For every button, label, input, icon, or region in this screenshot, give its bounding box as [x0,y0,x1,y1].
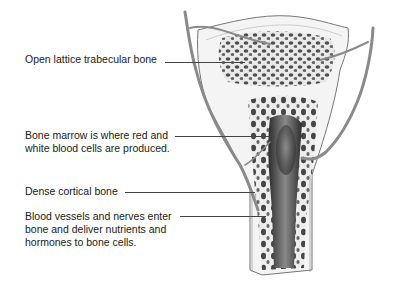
label-vessels-line3: hormones to bone cells. [25,236,172,249]
label-blood-vessels: Blood vessels and nerves enter bone and … [25,210,172,249]
label-marrow-line2: white blood cells are produced. [25,142,170,155]
label-vessels-line2: bone and deliver nutrients and [25,223,172,236]
label-marrow-line1: Bone marrow is where red and [25,129,170,142]
leader-line-marrow [175,136,275,137]
leader-line-cortical [125,192,255,193]
label-trabecular-text: Open lattice trabecular bone [25,53,157,65]
leader-line-vessels [180,216,266,217]
label-cortical-text: Dense cortical bone [25,185,118,197]
leader-line-trabecular [165,62,245,63]
label-vessels-line1: Blood vessels and nerves enter [25,210,172,223]
trabecular-region [219,31,335,86]
label-trabecular-bone: Open lattice trabecular bone [25,53,157,66]
label-bone-marrow: Bone marrow is where red and white blood… [25,129,170,155]
label-cortical-bone: Dense cortical bone [25,185,118,198]
